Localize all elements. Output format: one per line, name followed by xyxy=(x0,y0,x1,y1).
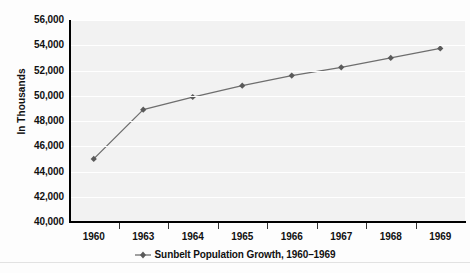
x-axis-tick-label: 1967 xyxy=(317,231,367,242)
gridline xyxy=(69,197,465,198)
x-axis-tick xyxy=(218,223,219,229)
gridline xyxy=(69,96,465,97)
y-axis-tick-label: 44,000 xyxy=(8,167,64,177)
legend-line-diamond-icon xyxy=(135,250,151,260)
y-axis-tick-labels: 40,00042,00044,00046,00048,00050,00052,0… xyxy=(0,0,64,273)
gridline xyxy=(69,71,465,72)
gridline xyxy=(69,172,465,173)
y-axis-tick-label: 56,000 xyxy=(8,15,64,25)
chart-legend: Sunbelt Population Growth, 1960–1969 xyxy=(0,249,470,260)
x-axis-tick xyxy=(317,223,318,229)
y-axis-tick-label: 48,000 xyxy=(8,116,64,126)
data-point-marker xyxy=(437,45,443,51)
gridline xyxy=(69,20,465,21)
x-axis-tick xyxy=(366,223,367,229)
chart-figure: In Thousands 40,00042,00044,00046,00048,… xyxy=(0,0,470,273)
series-markers xyxy=(91,45,444,162)
data-point-marker xyxy=(388,55,394,61)
gridline xyxy=(69,45,465,46)
x-axis-tick-label: 1965 xyxy=(218,231,268,242)
data-point-marker xyxy=(239,83,245,89)
x-axis-tick xyxy=(267,223,268,229)
legend-item-sunbelt-population-growth: Sunbelt Population Growth, 1960–1969 xyxy=(135,249,336,260)
x-axis-tick-label: 1960 xyxy=(69,231,119,242)
y-axis-tick-label: 42,000 xyxy=(8,192,64,202)
y-axis-tick-label: 52,000 xyxy=(8,66,64,76)
gridline xyxy=(69,121,465,122)
series-line-sunbelt-population-growth xyxy=(94,48,441,158)
y-axis-line xyxy=(69,20,71,223)
data-point-marker xyxy=(289,72,295,78)
x-axis-tick-label: 1966 xyxy=(267,231,317,242)
x-axis-tick xyxy=(416,223,417,229)
x-axis-tick-label: 1969 xyxy=(416,231,466,242)
x-axis-tick-label: 1964 xyxy=(168,231,218,242)
gridline xyxy=(69,146,465,147)
plot-area xyxy=(69,20,465,222)
data-point-marker xyxy=(338,64,344,70)
y-axis-tick-label: 54,000 xyxy=(8,40,64,50)
x-axis-tick-label: 1963 xyxy=(119,231,169,242)
legend-label: Sunbelt Population Growth, 1960–1969 xyxy=(155,249,336,260)
figure-bottom-rule xyxy=(0,262,470,263)
x-axis-tick xyxy=(119,223,120,229)
x-axis-tick xyxy=(168,223,169,229)
y-axis-tick-label: 50,000 xyxy=(8,91,64,101)
y-axis-tick-label: 46,000 xyxy=(8,141,64,151)
data-point-marker xyxy=(190,94,196,100)
y-axis-tick-label: 40,000 xyxy=(8,217,64,227)
x-axis-tick-label: 1968 xyxy=(366,231,416,242)
